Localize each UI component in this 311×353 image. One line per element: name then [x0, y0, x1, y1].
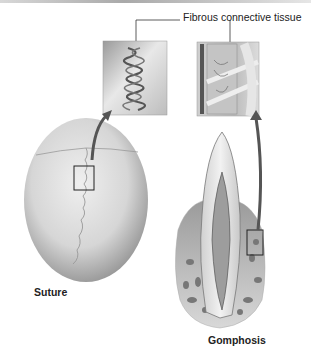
skull: [24, 118, 148, 282]
suture-inset: [103, 41, 167, 115]
tooth-and-socket: [175, 132, 265, 328]
gomphosis-inset: [197, 42, 259, 116]
suture-label: Suture: [34, 286, 67, 298]
gomphosis-label: Gomphosis: [208, 334, 266, 346]
callout-label: Fibrous connective tissue: [183, 11, 301, 23]
joint-diagram: [0, 0, 311, 353]
